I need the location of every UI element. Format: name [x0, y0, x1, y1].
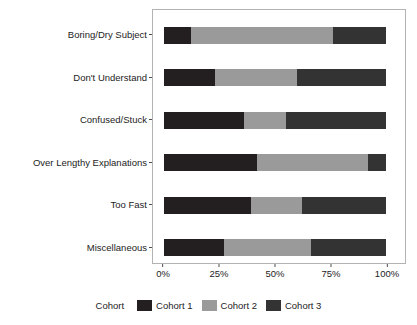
- bar-segment: [251, 197, 302, 214]
- bar-segment: [368, 154, 386, 171]
- legend-label-cohort-1: Cohort 1: [156, 300, 192, 311]
- x-axis-tick-mark-4: [387, 264, 388, 267]
- bar-segment: [164, 27, 191, 44]
- y-axis-tick-label-2: Confused/Stuck: [80, 114, 149, 125]
- legend-label-cohort-3: Cohort 3: [285, 300, 321, 311]
- x-axis-tick-4: 100%: [375, 264, 399, 280]
- bar-segment: [297, 69, 386, 86]
- x-axis: 0%25%50%75%100%: [152, 264, 406, 286]
- bar-segment: [164, 197, 251, 214]
- x-axis-tick-2: 50%: [265, 264, 284, 280]
- y-axis-tick-label-0: Boring/Dry Subject: [68, 29, 149, 40]
- x-axis-tick-3: 75%: [321, 264, 340, 280]
- x-axis-tick-label-1: 25%: [209, 268, 228, 280]
- bar-segment: [333, 27, 386, 44]
- x-axis-tick-label-4: 100%: [375, 268, 399, 280]
- x-axis-tick-label-2: 50%: [265, 268, 284, 280]
- x-axis-tick-mark-2: [274, 264, 275, 267]
- bar-row: [164, 27, 386, 44]
- legend-swatch-cohort-2: [202, 300, 217, 311]
- legend-item-cohort-3[interactable]: Cohort 3: [266, 300, 321, 311]
- bar-segment: [224, 239, 311, 256]
- bar-segment: [286, 112, 386, 129]
- bar-row: [164, 239, 386, 256]
- bar-segment: [164, 239, 224, 256]
- legend-title: Cohort: [96, 300, 125, 311]
- x-axis-tick-1: 25%: [209, 264, 228, 280]
- legend: Cohort Cohort 1 Cohort 2 Cohort 3: [0, 295, 417, 315]
- bar-segment: [215, 69, 297, 86]
- bar-row: [164, 154, 386, 171]
- y-axis-tick-label-5: Miscellaneous: [87, 242, 149, 253]
- legend-label-cohort-2: Cohort 2: [221, 300, 257, 311]
- x-axis-tick-mark-0: [162, 264, 163, 267]
- legend-item-cohort-1[interactable]: Cohort 1: [137, 300, 192, 311]
- bar-segment: [244, 112, 286, 129]
- y-axis: Boring/Dry Subject Don't Understand Conf…: [0, 9, 152, 264]
- bar-segment: [302, 197, 386, 214]
- stacked-bar-chart: Boring/Dry Subject Don't Understand Conf…: [0, 0, 417, 325]
- y-axis-tick-label-4: Too Fast: [111, 199, 149, 210]
- x-axis-tick-label-0: 0%: [156, 268, 170, 280]
- bar-segment: [164, 154, 257, 171]
- x-axis-tick-mark-1: [218, 264, 219, 267]
- x-axis-tick-label-3: 75%: [321, 268, 340, 280]
- legend-swatch-cohort-3: [266, 300, 281, 311]
- plot-panel: [152, 9, 406, 264]
- bar-segment: [164, 112, 244, 129]
- y-axis-tick-label-3: Over Lengthy Explanations: [33, 157, 149, 168]
- bar-row: [164, 112, 386, 129]
- bar-segment: [164, 69, 215, 86]
- plot-area: [164, 10, 386, 263]
- bar-segment: [257, 154, 368, 171]
- x-axis-tick-mark-3: [330, 264, 331, 267]
- bar-segment: [311, 239, 386, 256]
- legend-swatch-cohort-1: [137, 300, 152, 311]
- bar-row: [164, 69, 386, 86]
- legend-item-cohort-2[interactable]: Cohort 2: [202, 300, 257, 311]
- y-axis-tick-label-1: Don't Understand: [73, 72, 149, 83]
- bar-segment: [191, 27, 333, 44]
- x-axis-tick-0: 0%: [156, 264, 170, 280]
- bar-row: [164, 197, 386, 214]
